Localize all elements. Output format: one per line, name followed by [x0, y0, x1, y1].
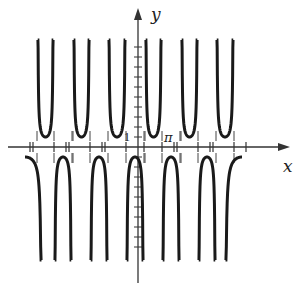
y-axis-label: y — [150, 4, 161, 24]
y-axis-arrow-icon — [134, 8, 142, 20]
lower-branch — [127, 157, 143, 260]
lower-branch — [163, 157, 179, 260]
x-axis-arrow-icon — [278, 143, 290, 151]
lower-branch — [199, 157, 215, 260]
x-axis-label: x — [283, 156, 293, 176]
function-graph: y x 1 π — [0, 0, 295, 286]
lower-branch-partial — [25, 157, 41, 260]
lower-branch — [55, 157, 71, 260]
lower-branch — [91, 157, 107, 260]
axes — [8, 8, 290, 283]
upper-branch — [109, 40, 125, 137]
lower-branch-partial — [226, 157, 242, 260]
upper-branch — [217, 40, 233, 137]
upper-branch — [38, 40, 54, 137]
upper-branch — [146, 40, 162, 137]
upper-branch — [182, 40, 198, 137]
upper-branch — [74, 40, 90, 137]
y-unit-label: 1 — [124, 130, 130, 144]
pi-label: π — [163, 130, 173, 145]
